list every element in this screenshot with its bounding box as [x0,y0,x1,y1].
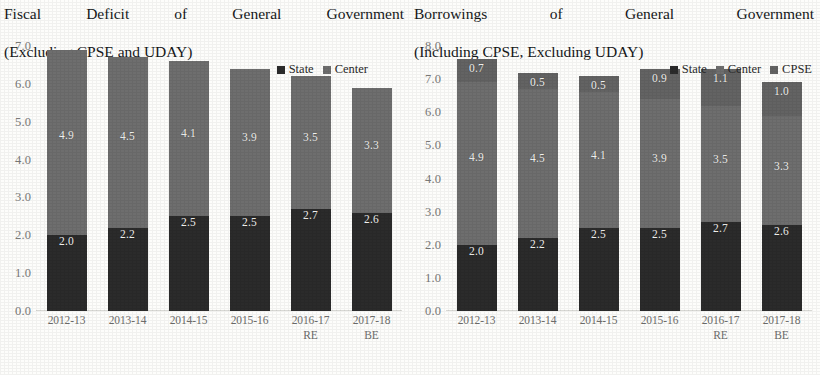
x-tick-label: 2015-16 [629,313,690,343]
bar-segment-state: 2.5 [579,228,619,311]
x-tick-label: 2012-13 [446,313,507,343]
bar-segment-state: 2.0 [457,245,497,311]
chart-title-right-line1: Borrowings of General Government [414,4,814,42]
legend-swatch-icon [670,66,678,74]
x-tick-label: 2017-18BE [751,313,812,343]
x-tick-label-main: 2015-16 [231,314,269,326]
x-tick-label-sub [36,328,97,343]
x-tick-label-sub [507,328,568,343]
bar-value-label: 0.9 [652,72,667,84]
bar-value-label: 2.6 [364,213,379,305]
x-tick-label-main: 2016-17 [292,314,330,326]
bar-segment-state: 2.5 [169,216,209,311]
bar-segment-center: 3.5 [291,76,331,209]
bar-value-label: 4.9 [59,129,74,141]
y-tick-label: 5.0 [425,138,441,153]
chart-panel-borrowings: Borrowings of General Government (Includ… [410,0,820,375]
bar-segment-state: 2.2 [108,228,148,311]
x-tick-label-main: 2013-14 [519,314,557,326]
legend-swatch-icon [323,66,331,74]
x-tick-label-main: 2017-18 [353,314,391,326]
x-tick-label-sub [568,328,629,343]
legend-item-state[interactable]: State [670,62,707,77]
bar-value-label: 3.3 [364,139,379,151]
stacked-bar: 1.03.32.6 [762,46,802,311]
stacked-bar: 0.74.92.0 [457,46,497,311]
legend-label: Center [728,62,761,77]
bar-value-label: 2.5 [591,228,606,305]
bar-value-label: 0.5 [530,76,545,88]
y-tick-label: 3.0 [15,190,31,205]
x-tick-label: 2014-15 [568,313,629,343]
bar-value-label: 2.5 [181,216,196,305]
y-tick-label: 0.0 [425,304,441,319]
y-tick-label: 8.0 [425,39,441,54]
y-tick-label: 4.0 [15,152,31,167]
y-axis-right: 8.07.06.05.04.03.02.01.00.0 [410,46,444,311]
x-tick-label-sub [158,328,219,343]
bar-value-label: 0.7 [469,62,484,74]
bar-segment-center: 3.5 [701,106,741,222]
y-tick-label: 7.0 [15,39,31,54]
plot-area-left: 7.06.05.04.03.02.01.00.0 4.92.04.52.24.1… [0,46,410,311]
x-axis-labels-right: 2012-13 2013-14 2014-15 2015-16 2016-17R… [446,313,812,343]
y-tick-label: 1.0 [15,266,31,281]
bar-segment-center: 4.9 [47,50,87,236]
legend-label: Center [335,62,368,77]
x-tick-label-main: 2016-17 [702,314,740,326]
bar-segment-state: 2.6 [352,213,392,311]
bar-segment-center: 3.9 [230,69,270,217]
bar-segment-center: 3.9 [640,99,680,228]
x-tick-label-main: 2015-16 [641,314,679,326]
bar-value-label: 3.3 [774,160,789,172]
legend-label: State [289,62,314,77]
bar-value-label: 4.1 [181,127,196,139]
y-tick-label: 3.0 [425,204,441,219]
bar-value-label: 3.5 [303,131,318,143]
x-tick-label: 2016-17RE [280,313,341,343]
bar-segment-state: 2.6 [762,225,802,311]
figure-two-panel-bar-charts: Fiscal Deficit of General Government (Ex… [0,0,820,375]
bar-segment-cpse: 1.0 [762,82,802,115]
bar-value-label: 2.5 [242,216,257,305]
bar-value-label: 2.6 [774,225,789,305]
x-tick-label-sub [629,328,690,343]
legend-item-center[interactable]: Center [716,62,761,77]
legend-item-cpse[interactable]: CPSE [770,62,812,77]
y-tick-label: 7.0 [425,72,441,87]
stacked-bar: 4.92.0 [47,46,87,311]
y-tick-label: 4.0 [425,171,441,186]
bar-value-label: 4.5 [530,152,545,164]
y-tick-label: 1.0 [425,270,441,285]
bar-value-label: 2.5 [652,228,667,305]
x-tick-label-sub: BE [751,328,812,343]
stacked-bar: 3.92.5 [230,46,270,311]
x-tick-label: 2013-14 [507,313,568,343]
bar-segment-state: 2.7 [291,209,331,311]
bar-value-label: 2.2 [120,228,135,305]
stacked-bar: 4.52.2 [108,46,148,311]
bar-value-label: 2.7 [713,222,728,305]
bar-value-label: 2.0 [59,235,74,305]
legend-right: StateCenterCPSE [670,62,812,77]
x-tick-label-sub [446,328,507,343]
x-tick-label: 2015-16 [219,313,280,343]
legend-item-state[interactable]: State [277,62,314,77]
bar-segment-cpse: 0.5 [579,76,619,93]
legend-item-center[interactable]: Center [323,62,368,77]
x-tick-label: 2012-13 [36,313,97,343]
bar-value-label: 3.9 [652,152,667,164]
x-tick-label-main: 2014-15 [170,314,208,326]
chart-panel-fiscal-deficit: Fiscal Deficit of General Government (Ex… [0,0,410,375]
bar-segment-center: 4.9 [457,82,497,244]
y-tick-label: 5.0 [15,114,31,129]
legend-swatch-icon [716,66,724,74]
stacked-bar: 4.12.5 [169,46,209,311]
bar-value-label: 4.5 [120,130,135,142]
bar-segment-center: 4.1 [579,92,619,228]
bar-segment-cpse: 0.5 [518,73,558,90]
bar-segment-center: 3.3 [762,116,802,225]
bar-segment-state: 2.2 [518,238,558,311]
y-tick-label: 2.0 [15,228,31,243]
bar-value-label: 3.5 [713,153,728,165]
